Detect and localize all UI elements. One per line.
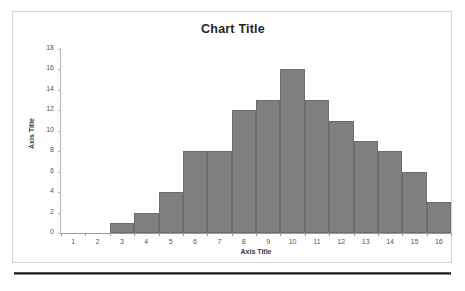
bar[interactable]: [159, 192, 183, 233]
y-tick-label: 12: [46, 105, 54, 112]
x-tick-mark: [232, 233, 233, 236]
x-tick-mark: [85, 233, 86, 236]
x-tick-label: 10: [280, 238, 304, 245]
x-tick-mark: [354, 233, 355, 236]
x-tick-label: 9: [256, 238, 280, 245]
x-tick-mark: [329, 233, 330, 236]
x-tick-label: 8: [232, 238, 256, 245]
chart-container: Chart Title Axis Title 024681012141618 1…: [12, 11, 452, 263]
bar[interactable]: [256, 100, 280, 233]
x-tick-mark: [183, 233, 184, 236]
y-tick-label: 8: [50, 146, 54, 153]
x-tick-mark: [159, 233, 160, 236]
x-tick-mark: [61, 233, 62, 236]
x-tick-mark: [280, 233, 281, 236]
x-tick-label: 4: [134, 238, 158, 245]
x-tick-mark: [134, 233, 135, 236]
bar[interactable]: [402, 172, 426, 233]
x-tick-mark: [207, 233, 208, 236]
x-tick-label: 14: [378, 238, 402, 245]
bar[interactable]: [183, 151, 207, 233]
x-tick-mark: [427, 233, 428, 236]
x-tick-mark: [256, 233, 257, 236]
x-tick-mark: [305, 233, 306, 236]
x-tick-label: 12: [329, 238, 353, 245]
y-axis-title: Axis Title: [28, 104, 35, 164]
y-tick-label: 4: [50, 187, 54, 194]
chart-title: Chart Title: [13, 22, 453, 36]
x-tick-label: 3: [110, 238, 134, 245]
y-tick-label: 2: [50, 208, 54, 215]
bar[interactable]: [354, 141, 378, 233]
bar[interactable]: [378, 151, 402, 233]
x-tick-label: 15: [402, 238, 426, 245]
bar[interactable]: [207, 151, 231, 233]
bar[interactable]: [427, 202, 451, 233]
bottom-divider: [14, 272, 451, 275]
bar[interactable]: [329, 121, 353, 233]
bar[interactable]: [232, 110, 256, 233]
bar[interactable]: [305, 100, 329, 233]
x-tick-label: 1: [61, 238, 85, 245]
x-tick-mark: [378, 233, 379, 236]
bar-series: [61, 49, 451, 233]
y-tick-label: 14: [46, 85, 54, 92]
y-tick-label: 18: [46, 44, 54, 51]
x-tick-mark: [451, 233, 452, 236]
x-tick-label: 11: [305, 238, 329, 245]
y-tick-label: 10: [46, 126, 54, 133]
y-tick-label: 16: [46, 64, 54, 71]
x-tick-label: 2: [85, 238, 109, 245]
x-tick-label: 6: [183, 238, 207, 245]
bar[interactable]: [110, 223, 134, 233]
x-tick-label: 7: [207, 238, 231, 245]
y-tick-label: 6: [50, 167, 54, 174]
x-tick-mark: [402, 233, 403, 236]
x-axis-title: Axis Title: [61, 248, 451, 255]
bar[interactable]: [134, 213, 158, 233]
x-tick-mark: [110, 233, 111, 236]
x-tick-label: 16: [427, 238, 451, 245]
x-tick-label: 13: [354, 238, 378, 245]
y-tick-label: 0: [50, 228, 54, 235]
bar[interactable]: [280, 69, 304, 233]
x-tick-label: 5: [159, 238, 183, 245]
